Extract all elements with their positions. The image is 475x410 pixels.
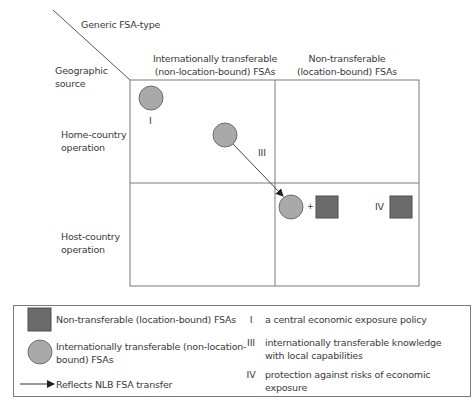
key-text-III-line2: with local capabilities [265, 349, 442, 362]
key-numeral-III: III [240, 336, 262, 349]
legend-circle-label: Internationally transferable (non-locati… [56, 340, 246, 366]
marker-IV: IV [375, 200, 384, 213]
marker-III: III [258, 146, 266, 159]
legend-circle-label-line1: Internationally transferable (non-locati… [56, 340, 246, 353]
row-header-line1: Host-country [61, 230, 120, 243]
key-text-III-line1: internationally transferable knowledge [265, 336, 442, 349]
square-icon [316, 196, 338, 218]
column-axis-label: Generic FSA-type [81, 18, 160, 31]
legend-circle-label-line2: bound) FSAs [56, 353, 246, 366]
row-header-home-country: Home-country operation [61, 128, 126, 154]
row-header-host-country: Host-country operation [61, 230, 120, 256]
row-axis-label: Geographic source [55, 64, 108, 90]
column-header-non-transferable: Non-transferable (location-bound) FSAs [275, 52, 419, 78]
marker-I: I [149, 114, 152, 127]
column-header-line1: Non-transferable [275, 52, 419, 65]
key-text-I: a central economic exposure policy [265, 313, 427, 326]
key-text-IV: protection against risks of economic exp… [265, 368, 475, 394]
row-header-line2: operation [61, 141, 126, 154]
circle-icon [279, 195, 303, 219]
row-axis-label-line1: Geographic [55, 64, 108, 77]
row-header-line2: operation [61, 243, 120, 256]
plus-sign: + [307, 200, 314, 213]
row-axis-label-line2: source [55, 77, 108, 90]
key-numeral-IV: IV [240, 368, 262, 381]
key-text-III: internationally transferable knowledge w… [265, 336, 442, 362]
legend-arrow-label: Reflects NLB FSA transfer [56, 378, 172, 391]
legend-square-label: Non-transferable (location-bound) FSAs [56, 313, 236, 326]
square-icon [390, 196, 412, 218]
row-header-line1: Home-country [61, 128, 126, 141]
circle-icon [139, 86, 163, 110]
key-numeral-I: I [240, 313, 262, 326]
column-header-line2: (location-bound) FSAs [275, 65, 419, 78]
circle-icon [213, 123, 237, 147]
